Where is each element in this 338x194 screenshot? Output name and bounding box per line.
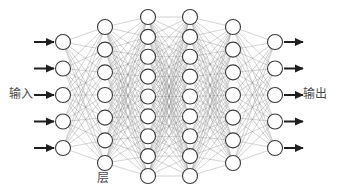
neuron-node	[226, 42, 241, 57]
neuron-node	[268, 141, 283, 156]
neuron-node	[56, 35, 71, 50]
neuron-node	[98, 42, 113, 57]
neuron-node	[183, 89, 198, 104]
neural-network-diagram: 输入 输出 层	[0, 0, 338, 194]
neuron-node	[141, 29, 156, 44]
neuron-node	[268, 61, 283, 76]
connection-edges	[63, 17, 275, 176]
neuron-node	[56, 61, 71, 76]
neuron-node	[141, 149, 156, 164]
neuron-node	[98, 156, 113, 171]
layer-label: 层	[97, 172, 109, 184]
neuron-node	[268, 114, 283, 129]
neuron-node	[98, 20, 113, 35]
neuron-node	[183, 69, 198, 84]
neuron-node	[98, 133, 113, 148]
neuron-node	[56, 88, 71, 103]
neuron-node	[56, 141, 71, 156]
neuron-node	[141, 10, 156, 25]
neuron-node	[183, 10, 198, 25]
neuron-node	[226, 20, 241, 35]
neuron-node	[183, 109, 198, 124]
neuron-node	[226, 133, 241, 148]
neuron-node	[98, 110, 113, 125]
neuron-node	[183, 149, 198, 164]
neuron-node	[226, 65, 241, 80]
neuron-node	[268, 88, 283, 103]
neuron-node	[98, 88, 113, 103]
neuron-node	[141, 69, 156, 84]
neuron-node	[141, 109, 156, 124]
neuron-node	[183, 49, 198, 64]
neuron-node	[183, 129, 198, 144]
neuron-node	[226, 156, 241, 171]
neuron-node	[183, 169, 198, 184]
neuron-node	[141, 49, 156, 64]
neuron-node	[56, 114, 71, 129]
input-label: 输入	[9, 88, 33, 100]
neuron-node	[141, 89, 156, 104]
neuron-node	[226, 88, 241, 103]
neuron-node	[141, 129, 156, 144]
neuron-node	[141, 169, 156, 184]
neuron-node	[98, 65, 113, 80]
neuron-node	[268, 35, 283, 50]
output-label: 输出	[303, 88, 327, 100]
neuron-node	[183, 29, 198, 44]
neuron-node	[226, 110, 241, 125]
network-canvas	[0, 0, 338, 194]
